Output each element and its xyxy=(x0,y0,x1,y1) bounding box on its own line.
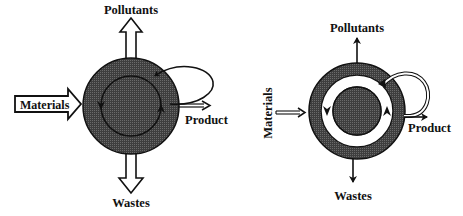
product-arrow-icon xyxy=(202,101,210,110)
inner-core xyxy=(333,87,381,135)
wastes-label: Wastes xyxy=(334,189,372,203)
product-label: Product xyxy=(408,121,452,135)
open-loop-diagram: Pollutants Materials Product Wastes xyxy=(15,3,229,210)
materials-arrow-icon xyxy=(298,108,305,117)
materials-label: Materials xyxy=(261,87,275,139)
pollutants-label: Pollutants xyxy=(104,3,158,17)
wastes-arrow-icon xyxy=(119,150,143,193)
closed-loop-diagram: Pollutants Materials Product Wastes xyxy=(261,21,452,203)
materials-label: Materials xyxy=(20,98,70,112)
pollutants-label: Pollutants xyxy=(330,21,384,35)
pollutants-arrow-icon xyxy=(120,18,142,60)
diagram-canvas: Pollutants Materials Product Wastes Poll… xyxy=(0,0,463,216)
wastes-label: Wastes xyxy=(112,196,150,210)
process-circle xyxy=(83,58,179,154)
product-label: Product xyxy=(185,113,229,127)
